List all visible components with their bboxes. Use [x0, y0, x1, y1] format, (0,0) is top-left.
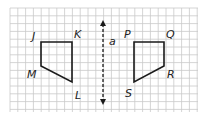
quadrilateral-pqrs — [134, 42, 164, 82]
vertex-label-j: J — [32, 31, 35, 42]
vertex-label-m: M — [27, 69, 37, 80]
reflection-diagram — [0, 0, 201, 118]
vertex-label-s: S — [125, 88, 132, 99]
vertex-label-r: R — [167, 69, 175, 80]
vertex-label-q: Q — [166, 29, 175, 40]
vertex-label-p: P — [124, 29, 131, 40]
vertex-label-k: K — [74, 29, 81, 40]
vertex-label-l: L — [75, 90, 81, 101]
arrow-up-icon — [100, 20, 106, 26]
line-label-a: a — [109, 36, 116, 47]
